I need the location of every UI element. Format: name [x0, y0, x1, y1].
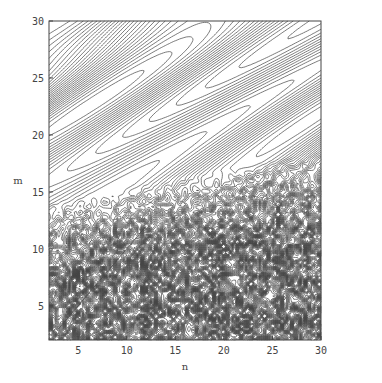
x-tick-label: 20: [218, 345, 230, 356]
y-tick-label: 5: [38, 301, 44, 312]
x-tick-label: 10: [121, 345, 133, 356]
contour-lines: [49, 21, 321, 340]
x-tick-label: 5: [75, 345, 81, 356]
x-tick-label: 15: [169, 345, 181, 356]
x-tick-label: 30: [315, 345, 327, 356]
contour-chart: 51015202530 51015202530 n m: [0, 0, 382, 383]
y-tick-label: 20: [32, 130, 44, 141]
x-tick-label: 25: [266, 345, 278, 356]
y-tick-label: 15: [32, 187, 44, 198]
x-axis-label: n: [182, 361, 189, 372]
y-tick-label: 25: [32, 73, 44, 84]
y-tick-label: 10: [32, 244, 44, 255]
y-tick-label: 30: [32, 16, 44, 27]
y-axis-label: m: [13, 175, 23, 186]
